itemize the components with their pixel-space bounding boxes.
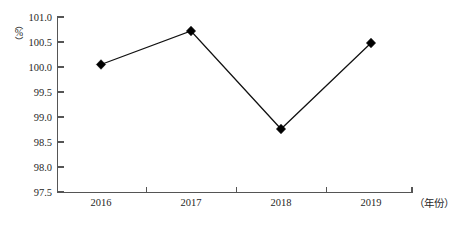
x-tick-label: 2016 [91, 197, 112, 208]
x-axis-unit-label: （年份） [414, 195, 454, 210]
series-polyline [101, 31, 371, 129]
x-tick-label: 2017 [181, 197, 202, 208]
x-tick-label: 2019 [361, 197, 382, 208]
y-tick-label: 99.0 [34, 112, 52, 123]
y-axis-unit-label: （ % ） [8, 20, 30, 45]
y-tick-marks [58, 17, 64, 192]
x-tick-marks [147, 187, 413, 193]
x-axis: 2016 2017 2018 2019 [57, 187, 413, 209]
y-tick-label: 100.5 [28, 37, 52, 48]
data-series [96, 26, 375, 134]
line-chart: 101.0 100.5 100.0 99.5 99.0 98.5 98.0 97… [0, 0, 459, 225]
y-tick-labels: 101.0 100.5 100.0 99.5 99.0 98.5 98.0 97… [28, 12, 52, 198]
chart-canvas: 101.0 100.5 100.0 99.5 99.0 98.5 98.0 97… [0, 0, 459, 225]
y-tick-label: 101.0 [28, 12, 52, 23]
y-tick-label: 100.0 [28, 62, 52, 73]
y-tick-label: 98.0 [34, 162, 52, 173]
x-tick-labels: 2016 2017 2018 2019 [91, 197, 382, 208]
x-tick-label: 2018 [271, 197, 292, 208]
y-tick-label: 97.5 [34, 187, 52, 198]
y-tick-label: 98.5 [34, 137, 52, 148]
y-unit-close-paren: ） [16, 30, 22, 52]
y-axis: 101.0 100.5 100.0 99.5 99.0 98.5 98.0 97… [28, 12, 63, 198]
y-tick-label: 99.5 [34, 87, 52, 98]
data-point-2016 [96, 60, 105, 70]
